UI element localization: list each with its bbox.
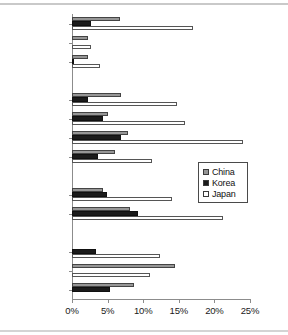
legend-item-china: China (203, 166, 243, 177)
legend-label-korea: Korea (212, 178, 235, 188)
x-tick-label-1: 5% (101, 305, 114, 316)
x-tick-label-3: 15% (170, 305, 188, 316)
legend-swatch-korea-icon (203, 180, 209, 186)
bar-china-malaysia (72, 150, 115, 154)
bar-korea-philippines (72, 116, 103, 120)
bar-japan-thailand (72, 102, 177, 106)
bar-korea-indonesia (72, 135, 121, 139)
x-tick-2 (143, 299, 144, 303)
bar-japan-cambodia (72, 64, 100, 68)
bar-korea-australia (72, 211, 138, 215)
y-tick-1 (69, 43, 72, 44)
bar-japan-korea (72, 273, 150, 277)
x-tick-4 (214, 299, 215, 303)
legend-item-japan: Japan (203, 188, 243, 199)
bar-china-vietnam (72, 17, 120, 21)
x-tick-label-0: 0% (65, 305, 78, 316)
bar-korea-malaysia (72, 154, 98, 158)
bar-china-indonesia (72, 131, 128, 135)
legend-label-china: China (212, 167, 235, 177)
bar-china-japan (72, 283, 134, 287)
bar-japan-philippines (72, 121, 185, 125)
bar-china-thailand (72, 93, 121, 97)
plot-area: VietnamLaosCambodiaThailandPhilippinesIn… (72, 14, 250, 299)
bar-korea-thailand (72, 97, 88, 101)
bar-japan-china (72, 254, 160, 258)
chart-legend: China Korea Japan (198, 162, 248, 203)
x-axis-line (72, 299, 250, 300)
bar-china-australia (72, 207, 130, 211)
legend-label-japan: Japan (212, 189, 236, 199)
bar-japan-indonesia (72, 140, 243, 144)
top-divider (0, 3, 288, 5)
bar-china-philippines (72, 112, 108, 116)
y-tick-10 (69, 271, 72, 272)
x-tick-5 (250, 299, 251, 303)
bar-china-nz (72, 188, 103, 192)
bar-china-korea (72, 264, 175, 268)
x-tick-3 (179, 299, 180, 303)
bar-korea-japan (72, 287, 110, 291)
bar-china-laos (72, 36, 88, 40)
x-tick-label-5: 25% (241, 305, 259, 316)
x-tick-label-4: 20% (205, 305, 223, 316)
bar-japan-nz (72, 197, 172, 201)
legend-swatch-china-icon (203, 169, 209, 175)
bar-korea-cambodia (72, 59, 74, 63)
x-tick-1 (108, 299, 109, 303)
x-tick-0 (72, 299, 73, 303)
legend-item-korea: Korea (203, 177, 243, 188)
bar-korea-china (72, 249, 96, 253)
bar-korea-nz (72, 192, 107, 196)
bar-japan-vietnam (72, 26, 193, 30)
bar-japan-malaysia (72, 159, 152, 163)
bar-chart: VietnamLaosCambodiaThailandPhilippinesIn… (0, 0, 288, 335)
bar-korea-vietnam (72, 21, 91, 25)
bar-china-cambodia (72, 55, 88, 59)
bar-japan-australia (72, 216, 223, 220)
bottom-divider (0, 330, 288, 332)
bar-japan-laos (72, 45, 91, 49)
x-tick-label-2: 10% (134, 305, 152, 316)
legend-swatch-japan-icon (203, 191, 209, 197)
